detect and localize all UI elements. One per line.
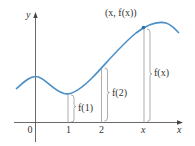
tick-label-x: x	[140, 124, 146, 135]
height-label-fx: f(x)	[154, 67, 169, 79]
point-label: (x, f(x))	[105, 7, 137, 19]
tick-label-1: 1	[66, 124, 71, 135]
brace-fx-icon	[147, 29, 152, 122]
point-marker	[142, 26, 146, 30]
height-label-f1: f(1)	[78, 102, 93, 114]
tick-label-2: 2	[99, 124, 104, 135]
y-axis-label: y	[25, 9, 31, 20]
x-axis-label: x	[176, 124, 182, 135]
brace-f1-icon	[71, 95, 76, 122]
function-graph: y x 0 1 2 x (x, f(x)) f(1) f(2) f(x)	[0, 0, 195, 146]
tick-label-0: 0	[28, 124, 33, 135]
height-label-f2: f(2)	[112, 87, 127, 99]
y-axis-arrow-icon	[33, 12, 37, 18]
brace-f2-icon	[105, 68, 110, 121]
function-curve	[16, 22, 179, 94]
